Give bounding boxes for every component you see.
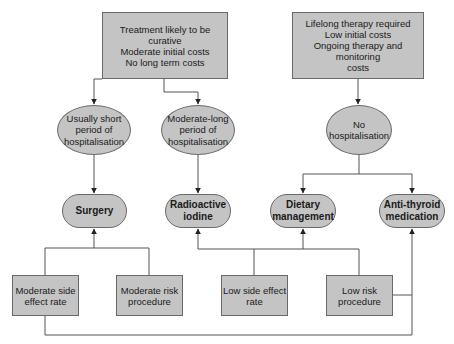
curative-treatment-box: Treatment likely to be curative Moderate… [102,12,228,79]
low-side-effect-text: Low side effect rate [223,285,286,307]
moderate-side-effect-box: Moderate side effect rate [12,275,79,316]
radioactive-iodine-node: Radioactive iodine [165,194,231,228]
anti-thyroid-medication-label: Anti-thyroid medication [384,199,441,223]
no-hospitalisation-ellipse: No hospitalisation [326,105,392,155]
curative-treatment-text: Treatment likely to be curative Moderate… [103,24,227,68]
surgery-label: Surgery [76,205,114,217]
moderate-risk-text: Moderate risk procedure [121,285,179,307]
moderate-side-effect-text: Moderate side effect rate [15,285,75,307]
low-risk-box: Low risk procedure [326,275,393,316]
no-hospitalisation-text: No hospitalisation [329,119,389,142]
anti-thyroid-medication-node: Anti-thyroid medication [379,194,445,228]
radioactive-iodine-label: Radioactive iodine [170,199,226,223]
moderate-long-hospitalisation-ellipse: Moderate-long period of hospitalisation [161,105,235,155]
moderate-risk-box: Moderate risk procedure [116,275,183,316]
short-hospitalisation-text: Usually short period of hospitalisation [64,113,124,148]
surgery-node: Surgery [62,194,127,228]
moderate-long-hospitalisation-text: Moderate-long period of hospitalisation [167,113,228,148]
short-hospitalisation-ellipse: Usually short period of hospitalisation [57,105,131,155]
lifelong-therapy-box: Lifelong therapy required Low initial co… [292,12,424,79]
lifelong-therapy-text: Lifelong therapy required Low initial co… [293,18,423,73]
low-risk-text: Low risk procedure [338,285,381,307]
dietary-management-node: Dietary management [270,194,336,228]
low-side-effect-box: Low side effect rate [221,275,288,316]
dietary-management-label: Dietary management [272,199,334,223]
